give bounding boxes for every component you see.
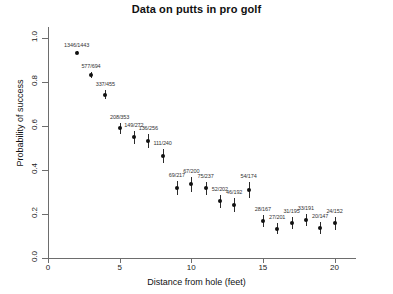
y-tick-mark [42,38,48,39]
data-point-label: 337/455 [96,81,115,87]
data-point-label: 28/167 [255,206,271,212]
plot-area: 0.00.20.40.60.81.0 05101520 1346/1443577… [0,0,393,294]
y-tick-mark [42,170,48,171]
data-point[interactable] [204,186,208,190]
data-point-label: 111/240 [153,140,171,146]
data-point[interactable] [290,221,294,225]
data-point[interactable] [189,182,193,186]
data-point-label: 33/191 [298,205,314,211]
data-point-label: 54/174 [240,173,256,179]
y-tick-mark [42,214,48,215]
data-point-label: 136/256 [139,125,158,131]
y-axis-title: Probability of success [15,43,25,203]
data-point[interactable] [89,73,93,77]
data-point-label: 1346/1443 [64,42,89,48]
y-tick-mark [42,82,48,83]
x-tick-label: 20 [320,263,350,272]
x-axis-title: Distance from hole (feet) [0,277,393,287]
y-axis-line [48,27,49,259]
y-tick-label: 1.0 [0,32,40,41]
putting-probability-chart: Data on putts in pro golf 0.00.20.40.60.… [0,0,393,294]
data-point-label: 24/152 [326,208,342,214]
data-point-label: 577/694 [81,63,100,69]
x-tick-label: 15 [248,263,278,272]
data-point[interactable] [247,188,251,192]
y-tick-label: 0.2 [0,208,40,217]
data-point-label: 27/201 [269,214,285,220]
data-point-label: 46/192 [226,189,242,195]
data-point[interactable] [304,218,308,222]
data-point[interactable] [318,226,322,230]
data-point[interactable] [333,221,337,225]
data-point[interactable] [175,186,179,190]
data-point-label: 20/147 [312,213,328,219]
data-point[interactable] [118,126,122,130]
data-point[interactable] [275,227,279,231]
data-point[interactable] [75,51,79,55]
data-point[interactable] [218,199,222,203]
y-tick-label: 0.0 [0,252,40,261]
x-axis-line [48,258,356,259]
x-tick-label: 0 [33,263,63,272]
data-point-label: 208/353 [110,114,129,120]
x-tick-label: 10 [176,263,206,272]
x-tick-label: 5 [105,263,135,272]
data-point-label: 75/237 [197,173,213,179]
data-point[interactable] [146,139,150,143]
data-point[interactable] [103,93,107,97]
data-point[interactable] [232,203,236,207]
data-point[interactable] [132,135,136,139]
data-point[interactable] [261,219,265,223]
y-tick-mark [42,126,48,127]
data-point[interactable] [161,154,165,158]
